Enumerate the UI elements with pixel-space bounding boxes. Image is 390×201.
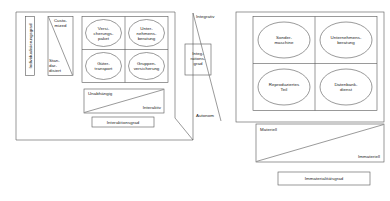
right-cell-ellipse-1 <box>258 22 310 58</box>
left-panel-outline <box>16 12 193 140</box>
diagram-canvas: Individualisierungsgrad Custo- mized Sta… <box>0 0 390 201</box>
right-x-axis-label-box <box>278 172 370 185</box>
diagram-vector-layer <box>0 0 390 201</box>
left-y-axis-label: Individualisierungsgrad <box>28 24 33 69</box>
center-axis-box <box>185 44 211 75</box>
left-y-scale-diagonal <box>49 17 73 75</box>
right-panel-outline <box>236 12 384 122</box>
right-cell-ellipse-2 <box>320 22 372 58</box>
right-cell-ellipse-4 <box>320 69 372 105</box>
left-x-axis-label-box <box>92 117 154 127</box>
left-cell-ellipse-4 <box>129 53 165 80</box>
left-cell-ellipse-1 <box>86 20 122 47</box>
right-x-scale-diagonal <box>257 125 384 162</box>
left-x-scale-diagonal <box>85 90 164 113</box>
left-cell-ellipse-2 <box>129 20 165 47</box>
center-axis-diagonal <box>193 13 221 121</box>
right-cell-ellipse-3 <box>258 69 310 105</box>
